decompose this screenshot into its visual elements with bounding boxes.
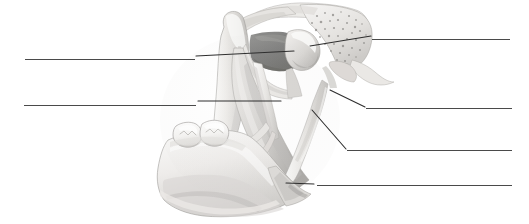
label-blank-left-upper[interactable]	[25, 59, 195, 60]
label-blank-right-third[interactable]	[347, 150, 512, 151]
styloid-process-group	[322, 60, 394, 88]
label-blank-right-second[interactable]	[366, 108, 512, 109]
label-blank-right-upper[interactable]	[372, 39, 510, 40]
mandible-illustration	[0, 0, 529, 224]
ambient-shading	[160, 35, 340, 205]
anatomy-figure	[0, 0, 529, 224]
label-blank-left-lower[interactable]	[24, 105, 196, 106]
label-blank-right-bottom[interactable]	[317, 185, 512, 186]
